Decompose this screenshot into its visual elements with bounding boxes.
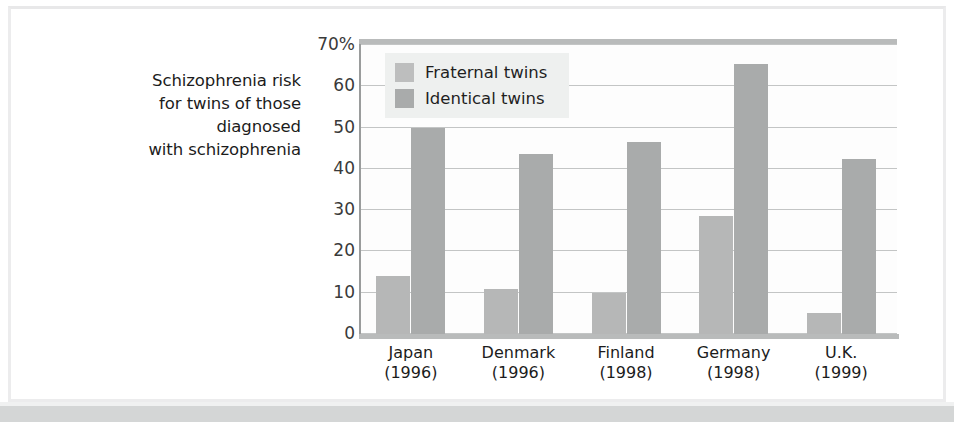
x-axis-label-denmark: Denmark(1996) xyxy=(482,343,556,383)
x-axis-label-germany: Germany(1998) xyxy=(697,343,771,383)
x-axis-label-year: (1998) xyxy=(697,363,771,383)
y-axis-tick-label: 50 xyxy=(293,117,355,137)
bar-denmark-identical xyxy=(519,154,553,334)
y-axis-tick-label: 0 xyxy=(293,323,355,343)
y-axis-tick-label: 60 xyxy=(293,75,355,95)
bar-germany-fraternal xyxy=(699,216,733,334)
chart-screenshot: Schizophrenia risk for twins of those di… xyxy=(0,0,954,422)
x-axis-label-country: U.K. xyxy=(815,343,868,363)
x-axis-label-country: Denmark xyxy=(482,343,556,363)
y-axis-tick-label: 10 xyxy=(293,282,355,302)
y-axis-tick-label: 40 xyxy=(293,158,355,178)
bottom-band xyxy=(0,406,954,422)
chart-title-line-4: with schizophrenia xyxy=(59,138,301,161)
bar-denmark-fraternal xyxy=(484,289,518,334)
bar-uk-identical xyxy=(842,159,876,334)
x-axis-label-japan: Japan(1996) xyxy=(384,343,437,383)
x-axis-label-uk: U.K.(1999) xyxy=(815,343,868,383)
legend-swatch-identical-icon xyxy=(395,89,414,108)
y-axis-tick-label: 30 xyxy=(293,199,355,219)
bar-finland-identical xyxy=(627,142,661,334)
bar-japan-fraternal xyxy=(376,276,410,334)
x-axis-labels: Japan(1996)Denmark(1996)Finland(1998)Ger… xyxy=(359,343,897,403)
x-axis-label-year: (1998) xyxy=(597,363,654,383)
y-axis-tick-label: 20 xyxy=(293,240,355,260)
chart-title-line-3: diagnosed xyxy=(59,115,301,138)
chart-card: Schizophrenia risk for twins of those di… xyxy=(8,6,946,402)
x-axis-baseline xyxy=(359,334,899,339)
legend-item-identical: Identical twins xyxy=(395,85,547,111)
x-axis-label-year: (1999) xyxy=(815,363,868,383)
x-axis-label-year: (1996) xyxy=(384,363,437,383)
y-axis-ticks: 70%6050403020100 xyxy=(289,39,355,341)
chart-title-line-2: for twins of those xyxy=(59,92,301,115)
x-axis-label-country: Germany xyxy=(697,343,771,363)
legend-label-identical: Identical twins xyxy=(425,89,545,108)
y-axis-tick-label: 70% xyxy=(293,34,355,54)
chart-legend: Fraternal twins Identical twins xyxy=(385,53,569,118)
gridline xyxy=(361,44,897,45)
legend-label-fraternal: Fraternal twins xyxy=(425,63,547,82)
legend-swatch-fraternal-icon xyxy=(395,63,414,82)
bar-uk-fraternal xyxy=(807,313,841,334)
chart-title-line-1: Schizophrenia risk xyxy=(59,69,301,92)
bar-finland-fraternal xyxy=(592,293,626,334)
x-axis-label-finland: Finland(1998) xyxy=(597,343,654,383)
x-axis-label-year: (1996) xyxy=(482,363,556,383)
x-axis-label-country: Japan xyxy=(384,343,437,363)
bar-japan-identical xyxy=(411,128,445,334)
bar-germany-identical xyxy=(734,64,768,334)
chart-title: Schizophrenia risk for twins of those di… xyxy=(59,69,301,161)
x-axis-label-country: Finland xyxy=(597,343,654,363)
legend-item-fraternal: Fraternal twins xyxy=(395,59,547,85)
